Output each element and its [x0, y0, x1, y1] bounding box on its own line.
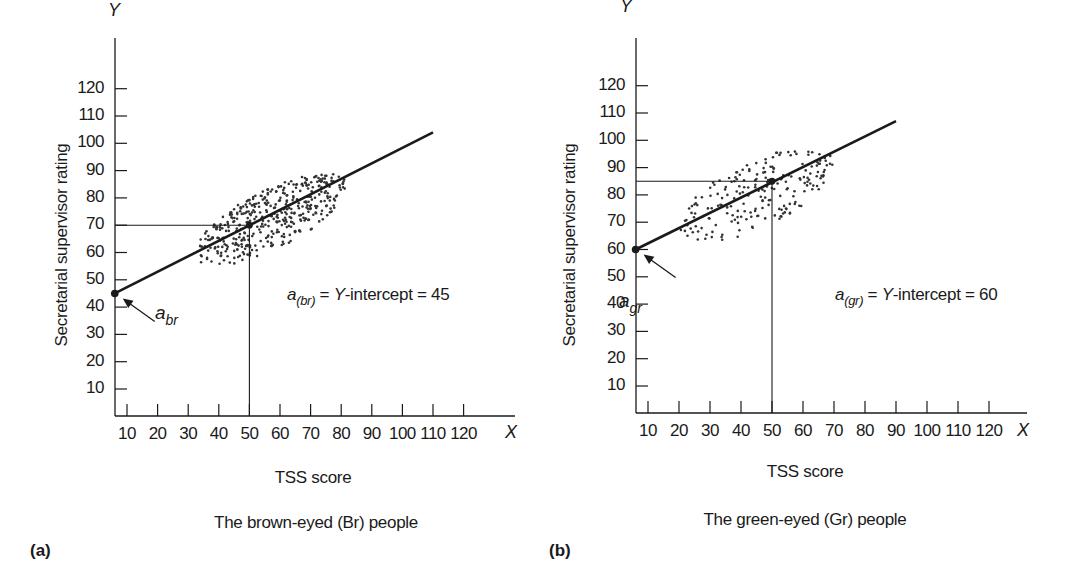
intercept-point	[632, 246, 640, 254]
y-tick-label: 100	[64, 132, 104, 152]
y-tick-label: 110	[585, 102, 625, 122]
y-tick-label: 120	[64, 78, 104, 98]
intercept-annotation: a(br) = Y-intercept = 45	[287, 285, 449, 308]
intercept-point	[111, 290, 119, 298]
arrowhead-icon	[644, 255, 655, 264]
panel-tag: (a)	[30, 541, 51, 561]
reference-point	[246, 222, 253, 229]
intercept-point-label: abr	[155, 302, 178, 328]
arrow-icon	[648, 258, 676, 278]
intercept-annotation: a(gr) = Y-intercept = 60	[835, 285, 997, 308]
y-tick-label: 90	[585, 157, 625, 177]
y-axis-letter: Y	[620, 0, 632, 17]
y-tick-label: 110	[64, 105, 104, 125]
y-tick-label: 10	[585, 375, 625, 395]
y-tick-label: 10	[64, 378, 104, 398]
y-tick-label: 20	[585, 348, 625, 368]
x-tick-label: 120	[444, 424, 484, 444]
y-tick-label: 90	[64, 160, 104, 180]
regression-line	[115, 132, 433, 293]
panel-tag: (b)	[549, 541, 571, 561]
y-axis-letter: Y	[108, 0, 120, 21]
y-tick-label: 70	[64, 214, 104, 234]
y-tick-label: 50	[585, 266, 625, 286]
y-tick-label: 60	[585, 239, 625, 259]
regression-line	[636, 121, 896, 249]
reference-point	[769, 178, 776, 185]
y-tick-label: 80	[64, 187, 104, 207]
y-tick-label: 60	[64, 242, 104, 262]
y-tick-label: 80	[585, 184, 625, 204]
x-axis-label: TSS score	[213, 468, 413, 488]
chart-panel-a: Y X Secretarial supervisor rating TSS sc…	[0, 0, 533, 584]
x-tick-label: 120	[969, 421, 1009, 441]
arrow-icon	[127, 301, 155, 321]
x-axis-letter: X	[1017, 420, 1029, 441]
chart-panel-b: Y X Secretarial supervisor rating TSS sc…	[533, 0, 1066, 584]
y-tick-label: 50	[64, 269, 104, 289]
x-axis-letter: X	[505, 422, 517, 443]
panel-subtitle: The brown-eyed (Br) people	[166, 513, 466, 533]
y-tick-label: 30	[64, 323, 104, 343]
x-axis-label: TSS score	[705, 462, 905, 482]
y-tick-label: 30	[585, 320, 625, 340]
y-tick-label: 20	[64, 351, 104, 371]
y-tick-label: 40	[585, 293, 625, 313]
y-axis-label: Secretarial supervisor rating	[560, 95, 580, 395]
y-tick-label: 120	[585, 75, 625, 95]
y-tick-label: 70	[585, 211, 625, 231]
y-tick-label: 40	[64, 296, 104, 316]
panel-subtitle: The green-eyed (Gr) people	[655, 510, 955, 530]
y-tick-label: 100	[585, 129, 625, 149]
